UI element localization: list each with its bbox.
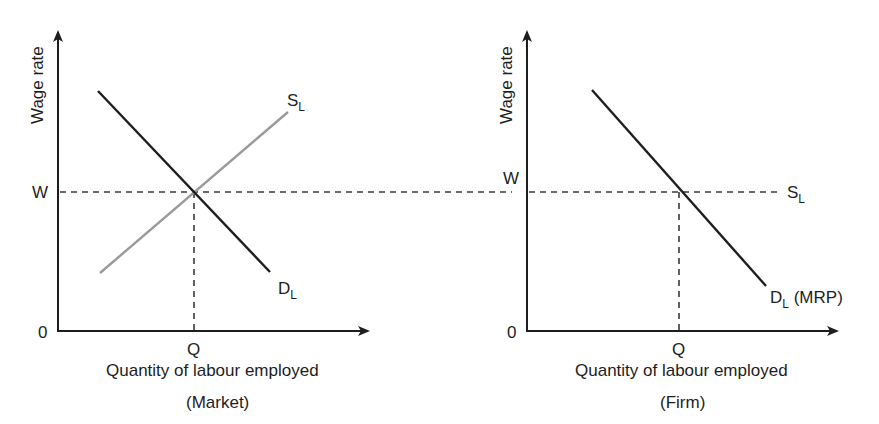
market-demand-curve bbox=[98, 91, 270, 272]
market-panel: Wage rate W 0 Q Quantity of labour emplo… bbox=[28, 32, 512, 412]
firm-x-axis-label: Quantity of labour employed bbox=[575, 361, 788, 380]
firm-w-label: W bbox=[503, 169, 519, 188]
firm-caption: (Firm) bbox=[660, 393, 705, 412]
market-origin-label: 0 bbox=[38, 323, 47, 342]
firm-demand-label: DL (MRP) bbox=[770, 288, 843, 311]
firm-demand-curve bbox=[592, 90, 766, 286]
market-demand-label: DL bbox=[278, 279, 297, 302]
firm-y-axis-label: Wage rate bbox=[497, 46, 516, 124]
firm-origin-label: 0 bbox=[507, 323, 516, 342]
market-caption: (Market) bbox=[186, 393, 249, 412]
market-supply-label: SL bbox=[287, 91, 305, 114]
labour-market-diagram: Wage rate W 0 Q Quantity of labour emplo… bbox=[0, 0, 879, 424]
firm-supply-label: SL bbox=[787, 183, 805, 206]
market-q-label: Q bbox=[187, 340, 200, 359]
market-w-label: W bbox=[32, 183, 48, 202]
market-y-axis-label: Wage rate bbox=[28, 46, 47, 124]
firm-q-label: Q bbox=[672, 340, 685, 359]
market-x-axis-label: Quantity of labour employed bbox=[106, 361, 319, 380]
firm-panel: Wage rate W 0 Q Quantity of labour emplo… bbox=[497, 32, 843, 412]
